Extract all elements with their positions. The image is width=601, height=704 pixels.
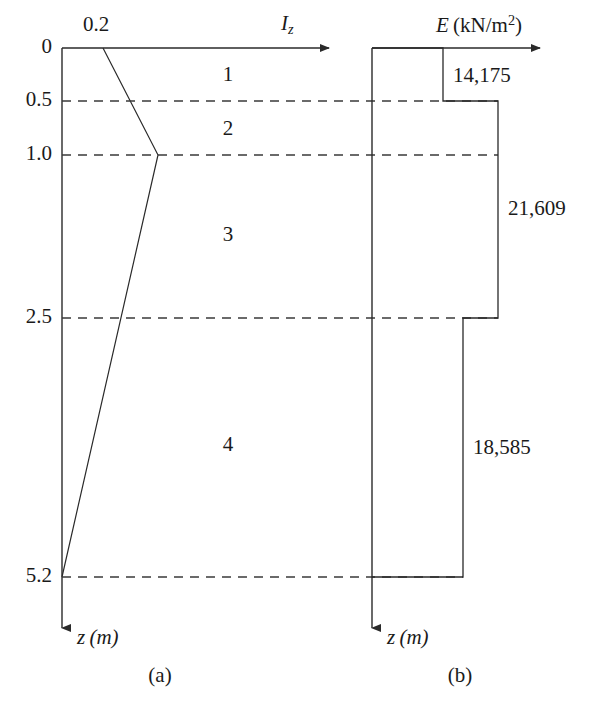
panel-a-axis-symbol: I xyxy=(281,11,288,35)
panel-a-drawing xyxy=(62,48,329,628)
layer-label-4: 4 xyxy=(208,434,248,455)
iz-peak-value-label: 0.2 xyxy=(83,14,109,35)
layer-label-1: 1 xyxy=(208,64,248,85)
panel-b-axis-unit: (kN/m xyxy=(453,13,508,37)
panel-b-axis-paren: ) xyxy=(515,13,522,37)
modulus-value-layer-2: 21,609 xyxy=(508,198,566,219)
panel-a-axis-title: Iz xyxy=(281,13,294,36)
modulus-value-layer-3: 18,585 xyxy=(473,437,531,458)
depth-tick-0-5: 0.5 xyxy=(2,89,52,110)
layer-boundary-lines xyxy=(62,101,498,577)
panel-b-axis-symbol: E xyxy=(436,13,449,37)
figure-drawing xyxy=(0,0,601,704)
depth-tick-5-2: 5.2 xyxy=(2,565,52,586)
panel-b-z-symbol: z xyxy=(387,625,395,649)
modulus-step-profile xyxy=(372,48,498,577)
panel-a-z-axis-label: z (m) xyxy=(77,627,119,648)
panel-a-axis-subscript: z xyxy=(288,21,294,37)
depth-tick-1-0: 1.0 xyxy=(2,143,52,164)
panel-b-caption: (b) xyxy=(430,665,490,686)
depth-tick-2-5: 2.5 xyxy=(2,306,52,327)
panel-b-z-unit: (m) xyxy=(399,625,428,649)
figure-container: 0 0.5 1.0 2.5 5.2 0.2 Iz 1 2 3 4 z (m) (… xyxy=(0,0,601,704)
panel-b-drawing xyxy=(372,48,540,628)
layer-label-3: 3 xyxy=(208,224,248,245)
iz-distribution-line xyxy=(62,48,158,577)
panel-b-z-axis-label: z (m) xyxy=(387,627,429,648)
panel-a-caption: (a) xyxy=(130,665,190,686)
panel-a-z-symbol: z xyxy=(77,625,85,649)
layer-label-2: 2 xyxy=(208,118,248,139)
modulus-value-layer-1: 14,175 xyxy=(453,65,511,86)
depth-tick-0: 0 xyxy=(14,36,52,57)
panel-b-axis-title: E (kN/m2) xyxy=(436,13,522,36)
panel-b-axis-exponent: 2 xyxy=(508,12,515,28)
panel-a-z-unit: (m) xyxy=(89,625,118,649)
